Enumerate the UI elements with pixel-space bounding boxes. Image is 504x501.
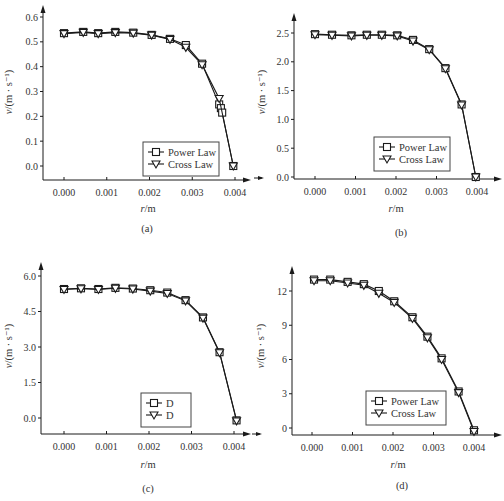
x-tick-label: 0.000 — [301, 442, 324, 453]
chart-panel-d: 0369120.0000.0010.0020.0030.004r/mv/(m ·… — [252, 266, 502, 492]
y-tick-label: 6 — [282, 354, 287, 365]
panel-caption: (b) — [395, 227, 408, 239]
chart-panel-a: 0.00.10.20.30.40.50.60.0000.0010.0020.00… — [3, 5, 251, 235]
y-tick-label: 3 — [282, 388, 287, 399]
y-axis-arrow-icon — [41, 5, 46, 13]
x-tick-label: 0.002 — [382, 442, 405, 453]
y-tick-label: 1.5 — [277, 85, 290, 96]
x-tick-label: 0.000 — [53, 441, 76, 452]
y-tick-label: 0.2 — [26, 111, 39, 122]
y-tick-label: 2.5 — [277, 28, 290, 39]
x-axis-arrow-icon — [243, 432, 251, 437]
chart-panel-c: 0.01.53.04.56.00.0000.0010.0020.0030.004… — [3, 262, 251, 495]
legend-label: Power Law — [399, 142, 448, 153]
legend-label: Power Law — [168, 147, 217, 158]
y-axis-label: v/(m · s⁻¹) — [3, 323, 15, 368]
x-tick-label: 0.004 — [224, 187, 247, 198]
y-tick-label: 0.1 — [26, 136, 39, 147]
stray-arrow-icon — [256, 432, 262, 436]
legend-square-icon — [376, 398, 383, 405]
y-tick-label: 0.4 — [26, 61, 39, 72]
x-axis-label: r/m — [140, 459, 155, 470]
legend-square-icon — [384, 144, 391, 151]
legend: Power LawCross Law — [143, 142, 219, 176]
legend-label: D — [166, 398, 174, 409]
legend-label: Cross Law — [391, 408, 437, 419]
legend: Power LawCross Law — [374, 137, 450, 171]
x-tick-label: 0.003 — [180, 441, 203, 452]
y-tick-label: 12 — [277, 286, 287, 297]
x-axis-label: r/m — [390, 459, 405, 470]
x-tick-label: 0.004 — [463, 442, 486, 453]
y-axis-label: v/(m · s⁻¹) — [255, 323, 267, 368]
y-tick-label: 9 — [282, 320, 287, 331]
legend-square-icon — [153, 149, 160, 156]
x-tick-label: 0.001 — [344, 186, 367, 197]
y-tick-label: 1.5 — [24, 377, 37, 388]
x-tick-label: 0.003 — [422, 442, 445, 453]
legend: Power LawCross Law — [366, 391, 446, 425]
y-axis-label: v/(m · s⁻¹) — [256, 69, 268, 114]
stray-arrow-icon — [258, 176, 264, 180]
y-tick-label: 6.0 — [24, 271, 37, 282]
x-axis-arrow-icon — [494, 177, 502, 182]
panel-caption: (c) — [142, 483, 154, 495]
axes: 0.01.53.04.56.00.0000.0010.0020.0030.004 — [24, 262, 252, 452]
x-tick-label: 0.004 — [466, 186, 489, 197]
y-axis-arrow-icon — [292, 13, 297, 21]
y-tick-label: 0.0 — [277, 172, 290, 183]
x-tick-label: 0.001 — [95, 441, 118, 452]
x-tick-label: 0.002 — [385, 186, 408, 197]
legend-square-icon — [151, 400, 158, 407]
y-tick-label: 0.5 — [26, 36, 39, 47]
x-tick-label: 0.003 — [181, 187, 204, 198]
legend-label: Cross Law — [168, 159, 214, 170]
y-tick-label: 0.0 — [26, 161, 39, 172]
y-tick-label: 0.6 — [26, 12, 39, 23]
x-tick-label: 0.004 — [223, 441, 246, 452]
x-tick-label: 0.002 — [138, 187, 161, 198]
x-tick-label: 0.000 — [304, 186, 327, 197]
legend-label: D — [166, 410, 174, 421]
y-axis-arrow-icon — [290, 266, 295, 274]
x-tick-label: 0.000 — [53, 187, 76, 198]
y-axis-arrow-icon — [39, 262, 44, 270]
y-tick-label: 3.0 — [24, 342, 37, 353]
y-tick-label: 0.5 — [277, 143, 290, 154]
y-tick-label: 0.0 — [24, 413, 37, 424]
panel-caption: (d) — [396, 480, 409, 492]
x-axis-arrow-icon — [494, 433, 502, 438]
y-tick-label: 2.0 — [277, 56, 290, 67]
legend: DD — [141, 393, 191, 427]
x-axis-arrow-icon — [243, 178, 251, 183]
legend-label: Cross Law — [399, 154, 445, 165]
y-axis-label: v/(m · s⁻¹) — [3, 69, 15, 114]
legend-label: Power Law — [391, 396, 440, 407]
y-tick-label: 1.0 — [277, 114, 290, 125]
x-tick-label: 0.001 — [341, 442, 364, 453]
y-tick-label: 4.5 — [24, 306, 37, 317]
x-tick-label: 0.002 — [138, 441, 161, 452]
x-tick-label: 0.003 — [425, 186, 448, 197]
panel-caption: (a) — [141, 223, 153, 235]
y-tick-label: 0 — [282, 423, 287, 434]
x-tick-label: 0.001 — [96, 187, 119, 198]
figure-canvas: 0.00.10.20.30.40.50.60.0000.0010.0020.00… — [0, 0, 504, 501]
chart-panel-b: 0.00.51.01.52.02.50.0000.0010.0020.0030.… — [254, 13, 502, 239]
x-axis-label: r/m — [140, 203, 155, 214]
y-tick-label: 0.3 — [26, 86, 39, 97]
x-axis-label: r/m — [388, 203, 403, 214]
